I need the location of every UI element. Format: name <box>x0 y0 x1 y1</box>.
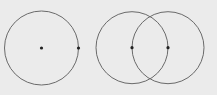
point-center-b <box>166 46 169 49</box>
geometry-diagram <box>0 0 217 95</box>
point-center-a <box>130 46 133 49</box>
background <box>0 0 217 95</box>
point-on-circumference <box>77 46 80 49</box>
point-center <box>40 46 43 49</box>
